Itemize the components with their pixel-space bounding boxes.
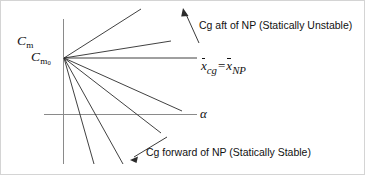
unstable-arrow-shaft — [185, 12, 199, 43]
cm0-label-base: C — [31, 49, 40, 64]
stability-diagram-figure: Cm Cm0 α xcg=xNP Cg aft of NP (Staticall… — [0, 0, 365, 175]
y-axis-label: Cm — [17, 34, 33, 48]
cm0-label-sub: m0 — [40, 56, 50, 66]
xbar-np-symbol: x — [226, 59, 232, 72]
unstable-annotation-text: Cg aft of NP (Statically Unstable) — [199, 20, 352, 31]
y-axis-label-sub: m — [26, 40, 33, 50]
curve-slope-negative-3 — [64, 58, 123, 164]
neutral-point-equals: = — [217, 58, 226, 73]
xbar-np-sub: NP — [232, 64, 246, 76]
unstable-arrow-head — [181, 8, 188, 17]
y-axis-label-base: C — [17, 33, 26, 48]
cm0-label-subsub: 0 — [47, 59, 50, 66]
curve-slope-positive-shallow — [64, 41, 171, 58]
neutral-point-label: xcg=xNP — [201, 59, 246, 75]
curve-slope-negative-4 — [64, 58, 94, 164]
xbar-cg-symbol: x — [201, 59, 207, 72]
x-axis-label: α — [200, 107, 207, 120]
stable-annotation-text: Cg forward of NP (Statically Stable) — [146, 147, 311, 158]
curve-slope-positive-steep — [64, 9, 141, 58]
cm0-intercept-label: Cm0 — [31, 50, 50, 64]
stable-arrow-head — [130, 157, 138, 164]
xbar-cg-sub: cg — [207, 64, 217, 76]
